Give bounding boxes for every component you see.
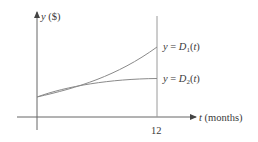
y-axis-label: y ($) bbox=[40, 11, 61, 23]
label-d2: y = D2(t) bbox=[162, 73, 200, 86]
curve-d1 bbox=[37, 47, 157, 97]
x-tick-12: 12 bbox=[151, 125, 162, 136]
x-axis-label: t (months) bbox=[199, 112, 243, 124]
chart-canvas: y ($) t (months) 12 y = D1(t) y = D2(t) bbox=[0, 0, 258, 142]
curve-d2 bbox=[37, 79, 157, 98]
label-d1: y = D1(t) bbox=[162, 41, 200, 54]
